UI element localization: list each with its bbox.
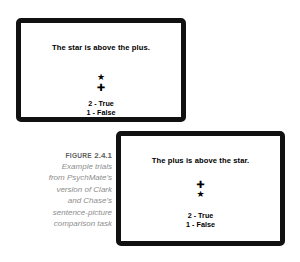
figure-caption-line-1: Example trials <box>8 161 112 172</box>
trial-1-symbols: ★ ✚ <box>21 73 181 92</box>
plus-icon: ✚ <box>21 83 181 93</box>
figure-caption: FIGURE 2.4.1 Example trials from PsychMa… <box>8 150 112 229</box>
trial-1-sentence: The star is above the plus. <box>21 43 181 52</box>
trial-2-option-true[interactable]: 2 - True <box>121 211 280 220</box>
trial-2-symbols: ✚ ★ <box>121 180 280 199</box>
trial-screen-2: The plus is above the star. ✚ ★ 2 - True… <box>116 131 285 246</box>
trial-2-option-false[interactable]: 1 - False <box>121 220 280 229</box>
figure-caption-label: FIGURE <box>66 152 92 159</box>
figure-container: The star is above the plus. ★ ✚ 2 - True… <box>0 0 300 262</box>
trial-1-option-false[interactable]: 1 - False <box>21 108 181 117</box>
figure-caption-number: 2.4.1 <box>94 151 112 160</box>
star-icon: ★ <box>121 190 280 200</box>
figure-caption-line-5: sentence-picture <box>8 207 112 218</box>
figure-caption-line-4: and Chase's <box>8 195 112 206</box>
figure-caption-line-3: version of Clark <box>8 184 112 195</box>
trial-2-response-options: 2 - True 1 - False <box>121 211 280 229</box>
figure-caption-line-2: from PsychMate's <box>8 172 112 183</box>
trial-1-response-options: 2 - True 1 - False <box>21 99 181 117</box>
trial-screen-1-display: The star is above the plus. ★ ✚ 2 - True… <box>21 23 181 117</box>
trial-screen-1: The star is above the plus. ★ ✚ 2 - True… <box>16 18 186 122</box>
trial-2-sentence: The plus is above the star. <box>121 156 280 165</box>
figure-caption-line-6: comparison task <box>8 218 112 229</box>
figure-caption-title: FIGURE 2.4.1 <box>8 150 112 161</box>
trial-1-option-true[interactable]: 2 - True <box>21 99 181 108</box>
trial-screen-2-display: The plus is above the star. ✚ ★ 2 - True… <box>121 136 280 241</box>
